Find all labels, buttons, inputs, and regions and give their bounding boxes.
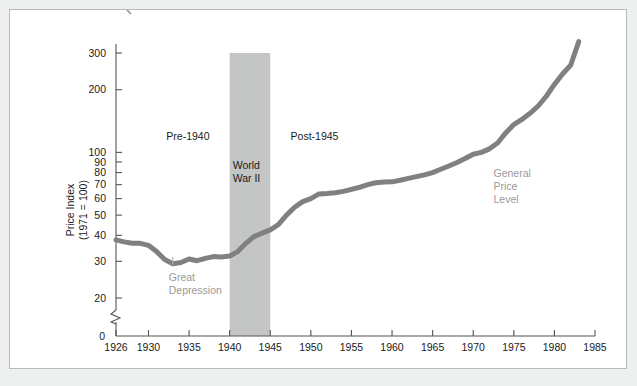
y-axis-title-line1: Price Index	[64, 183, 76, 236]
chart-panel: World War II 0 2030405060708090100200300…	[9, 9, 627, 369]
x-tick-label: 1926	[104, 341, 128, 353]
general-price-level-line	[116, 42, 579, 264]
y-tick-label: 30	[94, 255, 106, 267]
y-axis-title-line2: (1971 = 100)	[77, 180, 89, 240]
y-axis-ticks: 2030405060708090100200300	[88, 47, 122, 304]
top-edge-mark	[127, 10, 131, 14]
world-war-ii-band-label-line1: World	[233, 159, 260, 171]
x-axis-ticks: 1926193019351940194519501955196019651970…	[104, 330, 607, 353]
y-tick-label: 200	[88, 83, 106, 95]
x-tick-label: 1960	[380, 341, 404, 353]
x-tick-label: 1930	[137, 341, 161, 353]
y-tick-label: 40	[94, 229, 106, 241]
series-callout-line1: General	[494, 167, 531, 179]
x-tick-label: 1975	[502, 341, 526, 353]
world-war-ii-band: World War II	[230, 53, 271, 336]
annotation-series-callout: General Price Level	[494, 167, 531, 205]
annotation-pre-1940: Pre-1940	[166, 130, 209, 142]
series-callout-line3: Level	[494, 193, 519, 205]
x-tick-label: 1980	[543, 341, 567, 353]
x-tick-label: 1950	[299, 341, 323, 353]
x-tick-label: 1935	[177, 341, 201, 353]
x-tick-label: 1970	[462, 341, 486, 353]
x-tick-label: 1985	[583, 341, 607, 353]
world-war-ii-band-label-line2: War II	[233, 172, 261, 184]
x-tick-label: 1945	[259, 341, 283, 353]
annotation-post-1945: Post-1945	[291, 130, 339, 142]
y-axis-title: Price Index (1971 = 100)	[64, 180, 89, 240]
y-tick-label: 300	[88, 47, 106, 59]
y-tick-label: 80	[94, 166, 106, 178]
axis-break-zigzag	[111, 310, 120, 324]
y-tick-label: 60	[94, 192, 106, 204]
annotation-great-depression-line2: Depression	[169, 284, 222, 296]
y-tick-label: 20	[94, 292, 106, 304]
y-tick-label: 100	[88, 146, 106, 158]
series-callout-line2: Price	[494, 180, 518, 192]
price-index-log-chart: World War II 0 2030405060708090100200300…	[10, 10, 626, 368]
y-tick-label: 50	[94, 209, 106, 221]
x-tick-label: 1955	[340, 341, 364, 353]
annotation-great-depression-line1: Great	[169, 271, 195, 283]
x-tick-label: 1940	[218, 341, 242, 353]
x-tick-label: 1965	[421, 341, 445, 353]
y-tick-label: 70	[94, 178, 106, 190]
